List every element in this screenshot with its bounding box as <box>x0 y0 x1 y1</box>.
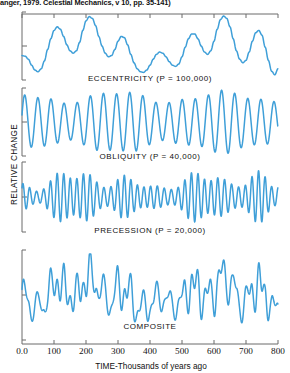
chart-svg: 0.0100200300400500600700800 <box>0 0 290 373</box>
x-tick-labels: 0.0100200300400500600700800 <box>16 346 285 356</box>
svg-text:800: 800 <box>271 346 285 356</box>
svg-text:600: 600 <box>207 346 221 356</box>
svg-text:0.0: 0.0 <box>16 346 28 356</box>
svg-text:200: 200 <box>79 346 93 356</box>
svg-text:100: 100 <box>47 346 61 356</box>
svg-text:400: 400 <box>143 346 157 356</box>
curves-layer <box>22 16 278 323</box>
svg-text:700: 700 <box>239 346 253 356</box>
figure: anger, 1979. Celestial Mechanics, v 10, … <box>0 0 290 373</box>
svg-text:500: 500 <box>175 346 189 356</box>
svg-text:300: 300 <box>111 346 125 356</box>
